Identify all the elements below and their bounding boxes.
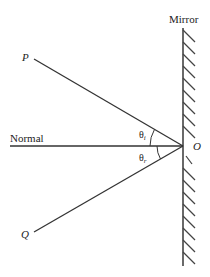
point-o-label: O bbox=[193, 140, 201, 152]
reflection-diagram: Mirror Normal P Q O θi θr bbox=[0, 0, 210, 277]
normal-label: Normal bbox=[10, 132, 44, 144]
point-p-label: P bbox=[21, 51, 29, 63]
incident-ray bbox=[34, 59, 183, 146]
mirror-label: Mirror bbox=[169, 13, 199, 25]
point-q-label: Q bbox=[21, 228, 29, 240]
angle-incidence-arc bbox=[150, 129, 155, 146]
angle-incidence-label: θi bbox=[139, 129, 146, 142]
angle-reflection-label: θr bbox=[139, 152, 147, 165]
angle-reflection-arc bbox=[157, 146, 161, 159]
